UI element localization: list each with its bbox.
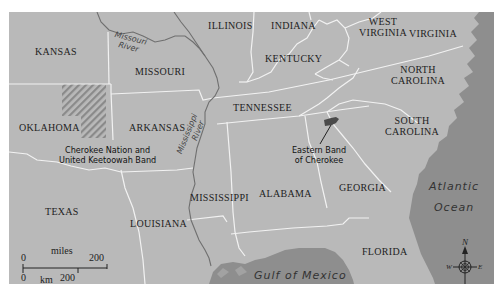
scale-miles-start: 0 — [21, 252, 26, 263]
state-label-virginia: VIRGINIA — [409, 28, 457, 39]
state-label-north-carolina: NORTH CAROLINA — [391, 64, 445, 86]
state-label-alabama: ALABAMA — [259, 188, 312, 199]
scale-miles-label: miles — [51, 245, 73, 256]
state-label-indiana: INDIANA — [271, 20, 316, 31]
water-label-gulf-of-mexico: Gulf of Mexico — [254, 269, 347, 282]
compass-icon — [450, 246, 480, 284]
state-label-kansas: KANSAS — [35, 46, 77, 57]
callout-cherokee-nation: Cherokee Nation and United Keetoowah Ban… — [59, 145, 156, 165]
water-label-atlantic-ocean: Atlantic Ocean — [429, 180, 479, 214]
state-label-illinois: ILLINOIS — [208, 20, 253, 31]
map: KANSAS ILLINOIS INDIANA WEST VIRGINIA VI… — [9, 12, 494, 284]
compass-west: W — [446, 263, 452, 271]
compass-south: S — [463, 282, 467, 284]
state-label-mississippi: MISSISSIPPI — [190, 192, 249, 203]
callout-eastern-band: Eastern Band of Cherokee — [292, 145, 346, 165]
state-label-georgia: GEORGIA — [339, 182, 386, 193]
scale-miles-end: 200 — [89, 252, 104, 263]
state-label-oklahoma: OKLAHOMA — [19, 122, 80, 133]
state-label-tennessee: TENNESSEE — [233, 102, 292, 113]
compass-east: E — [478, 263, 482, 271]
scale-km-start: 0 — [21, 272, 26, 283]
state-label-south-carolina: SOUTH CAROLINA — [385, 115, 439, 137]
state-label-florida: FLORIDA — [362, 246, 407, 257]
state-label-kentucky: KENTUCKY — [265, 53, 322, 64]
state-label-texas: TEXAS — [45, 206, 79, 217]
scale-km-label: km — [40, 274, 53, 284]
state-label-arkansas: ARKANSAS — [129, 122, 185, 133]
scale-km-end: 200 — [60, 272, 75, 283]
state-label-louisiana: LOUISIANA — [130, 218, 187, 229]
state-label-missouri: MISSOURI — [135, 66, 185, 77]
state-label-west-virginia: WEST VIRGINIA — [359, 16, 407, 38]
